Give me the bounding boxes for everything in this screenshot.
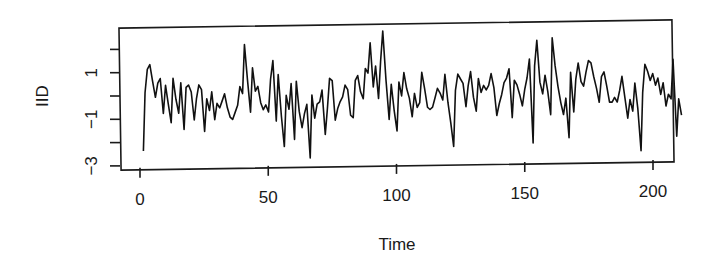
x-tick-label: 50: [259, 188, 278, 207]
chart: −3−11 050100150200 Time IID: [0, 0, 710, 263]
y-tick-label: 1: [82, 68, 101, 77]
data-line: [142, 27, 682, 161]
y-tick-label: −1: [82, 110, 101, 129]
y-tick-label: −3: [82, 156, 101, 175]
x-axis: 050100150200: [135, 160, 667, 209]
x-tick-label: 100: [382, 186, 410, 205]
x-tick-label: 200: [639, 182, 667, 201]
x-axis-label: Time: [378, 235, 415, 254]
x-tick-label: 150: [511, 184, 539, 203]
plot-area: [119, 20, 682, 170]
y-axis-label: IID: [33, 85, 52, 107]
x-tick-label: 0: [135, 190, 144, 209]
y-axis: −3−11: [82, 49, 120, 175]
